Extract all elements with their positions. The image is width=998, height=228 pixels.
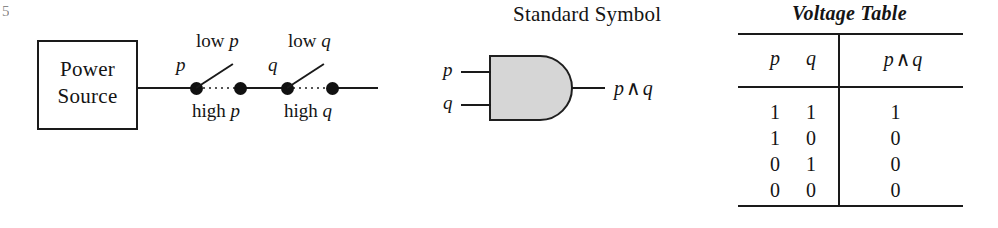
switch-q-closed-label-var: q [323,100,333,121]
power-source-box: Power Source [37,40,138,130]
switch-q-closed-label-text: high [284,100,323,121]
table-rule-top [738,33,963,35]
switch-p-open-label: low p [196,30,239,52]
table-row: 0 [848,125,943,151]
and-gate-output-label-q: q [643,77,653,99]
table-row: 0 [758,151,792,177]
switch-q-terminal-right [326,82,339,95]
switch-q-open-label-text: low [288,30,321,51]
switch-q-open-label: low q [288,30,331,52]
and-gate-shape [489,55,573,121]
switch-q-arm [286,63,324,89]
wire-gap-switch-p [201,87,237,89]
table-header-result: p∧q [848,47,958,71]
switch-p-open-label-var: p [229,30,239,51]
switch-q-closed-label: high q [284,100,332,122]
table-row: 0 [794,125,828,151]
page-edge-artifact: 5 [2,4,9,18]
table-header-result-p: p [884,48,894,70]
table-row: 1 [758,125,792,151]
and-gate-output-lead [571,87,605,89]
switch-p-arm [195,63,233,89]
table-row: 0 [848,151,943,177]
table-header-result-operator-icon: ∧ [894,48,913,70]
standard-symbol-title: Standard Symbol [513,2,661,27]
and-gate-output-label: p∧q [614,76,653,100]
table-header-result-q: q [912,48,922,70]
table-row: 1 [794,151,828,177]
wire-source-to-switch-p [138,87,198,89]
figure-and-gate-circuit: 5 Power Source p low p high p q low q hi… [0,0,998,228]
table-row: 0 [758,177,792,203]
table-rule-bottom [738,205,963,207]
switch-q-wire-label: q [268,54,278,76]
switch-q-open-label-var: q [321,30,331,51]
switch-p-terminal-right [234,82,247,95]
and-gate-input-label-q: q [443,92,453,114]
and-gate-output-label-p: p [614,77,624,99]
power-source-label-line1: Power [39,56,136,83]
wire-gap-switch-q [291,87,327,89]
table-rule-header [738,86,963,88]
and-gate-input-label-p: p [443,59,453,81]
table-row: 0 [848,177,943,203]
table-row: 1 [794,99,828,125]
switch-p-closed-label-var: p [231,100,241,121]
power-source-label-line2: Source [39,83,136,110]
switch-p-closed-label-text: high [192,100,231,121]
table-rule-vertical [838,33,840,207]
table-row: 0 [794,177,828,203]
switch-p-wire-label: p [176,54,186,76]
switch-p-closed-label: high p [192,100,240,122]
table-header-p: p [758,47,792,70]
and-gate-body [489,55,573,121]
and-gate-input-lead-bottom [461,104,491,106]
voltage-table-title: Voltage Table [792,2,907,25]
and-gate-output-operator-icon: ∧ [624,77,643,99]
table-header-q: q [794,47,828,70]
table-row: 1 [758,99,792,125]
and-gate-input-lead-top [461,71,491,73]
power-source-label: Power Source [39,56,136,110]
switch-p-open-label-text: low [196,30,229,51]
voltage-table: p q p∧q 1 1 1 1 0 0 0 1 0 0 0 0 [738,33,963,207]
table-row: 1 [848,99,943,125]
